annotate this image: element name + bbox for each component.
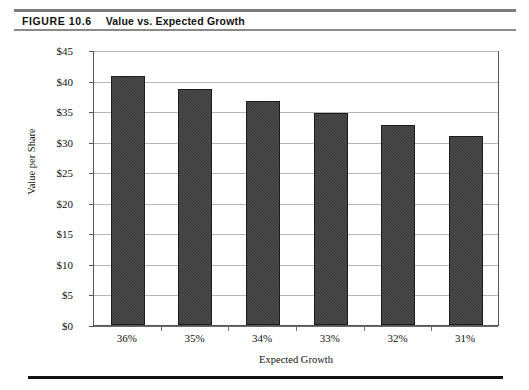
x-axis-tick-label: 33% (320, 332, 340, 344)
figure-panel: FIGURE 10.6 Value vs. Expected Growth Va… (0, 0, 529, 390)
figure-bottom-rule (28, 376, 503, 379)
bar (449, 136, 483, 325)
y-axis-tick-label: $35 (57, 106, 74, 118)
x-axis-tick-label: 32% (387, 332, 407, 344)
x-axis-tick-label: 31% (455, 332, 475, 344)
y-axis-tick-label: $25 (57, 167, 74, 179)
bar-group (94, 51, 162, 325)
y-axis-tick-labels: $0$5$10$15$20$25$30$35$40$45 (0, 51, 86, 326)
x-axis-tick (296, 326, 297, 331)
bars-layer (94, 51, 498, 325)
y-axis-tick-label: $40 (57, 76, 74, 88)
bar-group (229, 51, 297, 325)
bar (314, 113, 348, 325)
x-axis-tick-label: 35% (184, 332, 204, 344)
bar (381, 125, 415, 325)
y-axis-tick-label: $30 (57, 137, 74, 149)
figure-title-underline (14, 29, 516, 31)
x-axis-tick-label: 34% (252, 332, 272, 344)
x-axis-tick (431, 326, 432, 331)
x-axis-tick (364, 326, 365, 331)
bar-chart: Value per Share $0$5$10$15$20$25$30$35$4… (0, 34, 529, 376)
bar (178, 89, 212, 325)
x-axis-tick (161, 326, 162, 331)
y-axis-tick-label: $15 (57, 228, 74, 240)
x-axis-tick-labels: 36%35%34%33%32%31% (93, 332, 499, 348)
bar (246, 101, 280, 325)
x-axis-title: Expected Growth (93, 354, 499, 365)
bar-group (432, 51, 500, 325)
figure-top-rule (14, 9, 516, 12)
plot-area (93, 51, 499, 326)
y-axis-tick-label: $0 (62, 320, 73, 332)
x-axis-tick (228, 326, 229, 331)
bar-group (162, 51, 230, 325)
y-axis-tick-label: $5 (62, 289, 73, 301)
y-axis-tick-label: $10 (57, 259, 74, 271)
x-axis-tick-label: 36% (117, 332, 137, 344)
figure-number-label: FIGURE 10.6 (22, 15, 92, 27)
y-axis-tick (89, 326, 94, 327)
y-axis-tick-label: $45 (57, 45, 74, 57)
figure-caption: FIGURE 10.6 Value vs. Expected Growth (22, 13, 245, 28)
figure-title: Value vs. Expected Growth (106, 15, 245, 27)
bar-group (297, 51, 365, 325)
bar-group (365, 51, 433, 325)
bar (111, 76, 145, 325)
y-axis-tick-label: $20 (57, 198, 74, 210)
